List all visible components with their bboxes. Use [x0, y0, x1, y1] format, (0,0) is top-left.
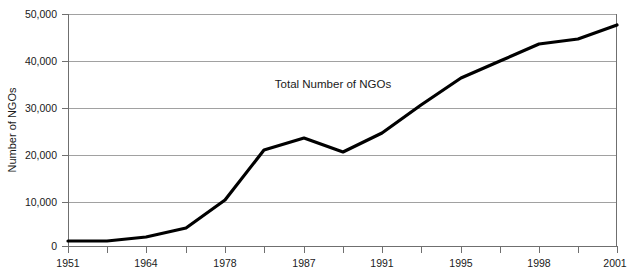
axes [68, 14, 617, 246]
x-tick-label-1951: 1951 [56, 257, 80, 269]
x-tick-label-1998: 1998 [527, 257, 551, 269]
gridlines [68, 14, 617, 202]
x-tick-label-1978: 1978 [213, 257, 237, 269]
y-tick-label-20000: 20,000 [25, 149, 57, 161]
ngo-series-line [68, 25, 617, 241]
x-tick-label-2001: 2001 [603, 257, 627, 269]
x-tick-marks [68, 246, 617, 253]
y-tick-label-10000: 10,000 [25, 196, 57, 208]
ngo-line-chart: 50,000 40,000 30,000 20,000 10,000 0 [0, 0, 631, 275]
y-tick-label-50000: 50,000 [25, 8, 57, 20]
chart-figure: 50,000 40,000 30,000 20,000 10,000 0 [0, 0, 631, 275]
y-tick-label-0: 0 [51, 240, 57, 252]
x-tick-label-1995: 1995 [449, 257, 473, 269]
y-tick-label-40000: 40,000 [25, 55, 57, 67]
y-tick-label-30000: 30,000 [25, 102, 57, 114]
y-tick-labels: 50,000 40,000 30,000 20,000 10,000 0 [25, 8, 57, 252]
x-tick-label-1964: 1964 [134, 257, 158, 269]
series-annotation-label: Total Number of NGOs [275, 78, 392, 90]
y-axis-title: Number of NGOs [6, 87, 18, 172]
y-tick-marks [62, 14, 68, 246]
x-tick-labels: 1951 1964 1978 1987 1991 1995 1998 2001 [56, 257, 627, 269]
x-tick-label-1987: 1987 [292, 257, 316, 269]
x-tick-label-1991: 1991 [370, 257, 394, 269]
